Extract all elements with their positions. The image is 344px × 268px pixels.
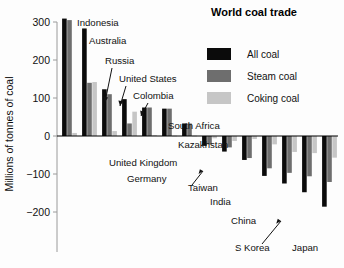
bar-india-all-coal — [262, 136, 267, 176]
bar-japan-all-coal — [322, 136, 327, 207]
bar-taiwan-all-coal — [242, 136, 247, 160]
bar-australia-all-coal — [82, 28, 87, 136]
legend-label-all-coal: All coal — [247, 49, 279, 60]
category-label-kazakhstan: Kazakhstan — [178, 139, 228, 150]
bar-s-korea-coking-coal — [312, 136, 317, 153]
category-label-russia: Russia — [105, 55, 135, 66]
y-tick-label-100: 100 — [32, 92, 50, 104]
legend-swatch-steam-coal — [207, 70, 231, 82]
y-tick-label-neg200: −200 — [26, 206, 50, 218]
bar-s-korea-steam-coal — [307, 136, 312, 176]
bar-russia-coking-coal — [112, 131, 117, 136]
category-label-united-kingdom: United Kingdom — [109, 157, 177, 168]
bar-china-coking-coal — [292, 136, 297, 152]
legend-label-coking-coal: Coking coal — [247, 93, 299, 104]
category-label-germany: Germany — [127, 173, 167, 184]
legend-swatch-coking-coal — [207, 92, 231, 104]
bar-indonesia-all-coal — [62, 19, 67, 136]
bar-china-all-coal — [282, 136, 287, 184]
y-tick-label-0: 0 — [44, 130, 50, 142]
bar-s-korea-all-coal — [302, 136, 307, 192]
bar-russia-steam-coal — [107, 94, 112, 136]
bar-india-steam-coal — [267, 136, 272, 168]
bar-united-states-all-coal — [122, 99, 127, 136]
legend-label-steam-coal: Steam coal — [247, 71, 297, 82]
bar-australia-coking-coal — [92, 82, 97, 136]
chart-container: Millions of tonnes of coal 300 200 100 0… — [0, 0, 344, 268]
bar-japan-coking-coal — [332, 136, 337, 158]
bar-india-coking-coal — [272, 136, 277, 144]
bar-germany-coking-coal — [232, 136, 237, 141]
bar-indonesia-steam-coal — [67, 20, 72, 136]
bar-japan-steam-coal — [327, 136, 332, 182]
bar-united-states-coking-coal — [132, 112, 137, 136]
chart-title: World coal trade — [211, 6, 297, 18]
category-label-colombia: Colombia — [133, 90, 174, 101]
legend-swatch-all-coal — [207, 48, 231, 60]
bar-united-states-steam-coal — [127, 123, 132, 136]
bar-south-africa-all-coal — [162, 109, 167, 136]
category-label-china: China — [231, 215, 257, 226]
chart-background — [0, 0, 344, 268]
category-label-australia: Australia — [89, 35, 127, 46]
world-coal-trade-bar-chart: Millions of tonnes of coal 300 200 100 0… — [0, 0, 344, 268]
y-tick-label-300: 300 — [32, 16, 50, 28]
category-label-india: India — [210, 196, 231, 207]
category-label-south-africa: South Africa — [168, 120, 220, 131]
category-label-indonesia: Indonesia — [77, 17, 119, 28]
category-label-s-korea: S Korea — [235, 242, 270, 253]
category-label-japan: Japan — [292, 242, 318, 253]
y-tick-label-200: 200 — [32, 54, 50, 66]
y-axis-title: Millions of tonnes of coal — [3, 77, 15, 192]
bar-china-steam-coal — [287, 136, 292, 173]
y-tick-label-neg100: −100 — [26, 168, 50, 180]
bar-colombia-steam-coal — [147, 108, 152, 137]
category-label-united-states: United States — [119, 73, 177, 84]
bar-taiwan-steam-coal — [247, 136, 252, 158]
bar-australia-steam-coal — [87, 83, 92, 136]
